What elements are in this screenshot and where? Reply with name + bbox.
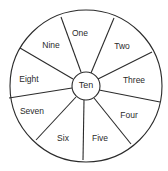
segment-label-eight: Eight (19, 74, 39, 84)
spoke-nine-one (61, 17, 81, 72)
spoke-three-four (99, 90, 160, 102)
spoke-one-two (91, 18, 114, 73)
spoke-five-six (83, 100, 84, 160)
segment-label-nine: Nine (42, 40, 60, 50)
segment-label-five: Five (92, 133, 108, 143)
segment-label-seven: Seven (20, 106, 44, 116)
segment-label-one: One (72, 28, 88, 38)
segment-label-two: Two (114, 41, 130, 51)
center-label: Ten (79, 80, 94, 90)
wheel-diagram: Ten One Two Three Four Five Six Seven Ei… (0, 0, 168, 171)
segment-label-six: Six (57, 133, 70, 143)
segment-label-three: Three (123, 75, 145, 85)
spoke-six-seven (36, 97, 76, 140)
spoke-seven-eight (9, 88, 72, 98)
segment-label-four: Four (120, 110, 138, 120)
